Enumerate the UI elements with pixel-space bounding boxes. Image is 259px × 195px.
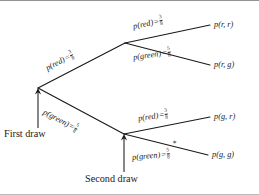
second-draw-label: Second draw (85, 174, 138, 184)
outcome-label-rr: p(r, r) (214, 21, 233, 29)
first-draw-label: First draw (4, 129, 46, 139)
outcome-label-rg: p(r, g) (214, 61, 234, 69)
branch-event-green-green: p(green) (132, 150, 161, 162)
outcome-label-gg: p(g, g) (212, 151, 234, 159)
probability-tree-diagram: p(red)=38 p(green)=58 p(red)=38 p(green)… (0, 0, 259, 195)
branch-event-green-red: p(red) (137, 111, 159, 123)
outcome-label-gr: p(g, r) (214, 113, 235, 121)
asterisk-annotation: * (173, 140, 178, 148)
